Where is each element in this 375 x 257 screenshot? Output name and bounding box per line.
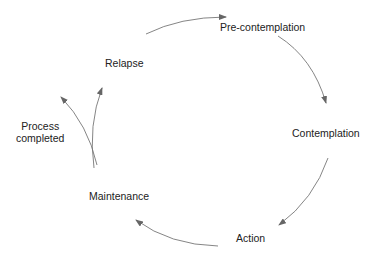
- stage-contemplation: Contemplation: [292, 127, 360, 139]
- exit-process-completed: Process completed: [16, 120, 64, 144]
- stage-pre-contemplation: Pre-contemplation: [220, 21, 305, 33]
- stage-relapse: Relapse: [105, 57, 144, 69]
- exit-label-line2: completed: [16, 132, 64, 144]
- arrow-action-to-maintenance: [136, 220, 218, 246]
- arrow-precontemplation-to-contemplation: [278, 36, 326, 103]
- arrow-contemplation-to-action: [279, 158, 328, 225]
- arrow-maintenance-to-completed: [61, 97, 97, 165]
- arrow-relapse-to-precontemplation: [146, 17, 226, 34]
- exit-label-line1: Process: [16, 120, 64, 132]
- stage-action: Action: [236, 232, 265, 244]
- arrow-maintenance-to-relapse: [92, 88, 102, 168]
- stage-maintenance: Maintenance: [89, 190, 149, 202]
